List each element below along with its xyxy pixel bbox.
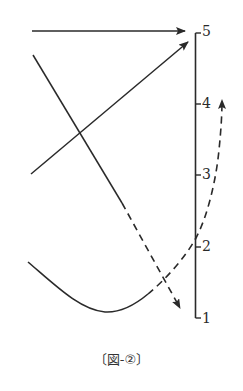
rising-arrow-line (31, 42, 188, 174)
axis-label-2: 2 (202, 239, 211, 253)
diagram-figure (0, 0, 243, 391)
falling-line-solid-segment (33, 55, 122, 203)
axis-label-1: 1 (202, 311, 211, 325)
axis-label-3: 3 (202, 167, 211, 181)
u-curve-dashed-segment (148, 100, 222, 294)
axis-label-4: 4 (202, 96, 211, 110)
u-curve-solid-segment (28, 262, 148, 312)
figure-caption: 〔図-②〕 (0, 349, 243, 368)
falling-arrow-line (33, 55, 180, 308)
vertical-axis (196, 33, 202, 318)
u-curve-arrow (28, 100, 222, 312)
axis-label-5: 5 (202, 24, 211, 38)
